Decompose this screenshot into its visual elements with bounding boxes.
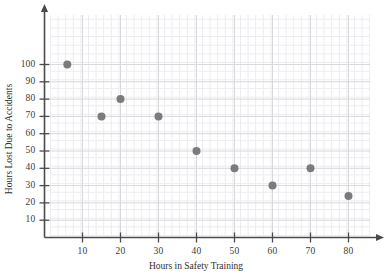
plot-canvas <box>0 0 392 277</box>
data-point <box>345 192 353 200</box>
y-tick-label: 60 <box>26 129 36 139</box>
y-tick-label: 90 <box>26 77 36 87</box>
y-axis-title: Hours Lost Due to Accidents <box>5 84 15 194</box>
data-point <box>155 112 163 120</box>
data-point <box>117 95 125 103</box>
x-tick-label: 10 <box>78 247 88 257</box>
data-point <box>269 182 277 190</box>
data-point <box>193 147 201 155</box>
x-axis-title: Hours in Safety Training <box>149 262 243 272</box>
x-tick-label: 60 <box>268 247 278 257</box>
data-point <box>231 164 239 172</box>
y-tick-label: 30 <box>26 181 36 191</box>
x-tick-label: 30 <box>154 247 164 257</box>
x-tick-label: 70 <box>306 247 316 257</box>
x-tick-label: 80 <box>344 247 354 257</box>
x-tick-label: 20 <box>116 247 126 257</box>
y-tick-label: 100 <box>21 60 36 70</box>
data-point <box>307 164 315 172</box>
y-tick-label: 70 <box>26 112 36 122</box>
data-point <box>63 61 71 69</box>
y-tick-label: 50 <box>26 146 36 156</box>
y-tick-label: 20 <box>26 198 36 208</box>
y-tick-label: 10 <box>26 215 36 225</box>
y-tick-label: 80 <box>26 94 36 104</box>
x-tick-label: 40 <box>192 247 202 257</box>
y-tick-label: 40 <box>26 164 36 174</box>
data-point <box>98 112 106 120</box>
x-tick-label: 50 <box>230 247 240 257</box>
scatter-plot-figure: 102030405060708090100 1020304050607080 H… <box>0 0 392 277</box>
